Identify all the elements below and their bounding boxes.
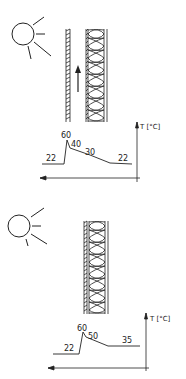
- axis-label: T [°C]: [139, 123, 161, 131]
- label-inside-temp: 22: [118, 154, 128, 163]
- non-ventilated-wall-svg: T [°C] 22 60 50 35: [0, 190, 186, 379]
- insulation-layer: [86, 29, 107, 122]
- label-mid-temp: 30: [85, 148, 95, 157]
- label-outside-temp: 22: [46, 154, 56, 163]
- sun-icon: [8, 208, 47, 246]
- sun-icon: [12, 17, 51, 59]
- label-after-peak-temp: 50: [88, 332, 98, 341]
- label-inside-temp: 35: [122, 336, 132, 345]
- label-after-peak-temp: 40: [71, 140, 81, 149]
- label-peak-temp: 60: [77, 324, 87, 333]
- ventilated-wall-svg: T [°C] 22 60 40 30 22: [0, 0, 186, 190]
- label-peak-temp: 60: [61, 131, 71, 140]
- wall-section: [84, 221, 108, 314]
- ventilated-wall-diagram: T [°C] 22 60 40 30 22: [0, 0, 186, 190]
- outer-cladding: [66, 29, 70, 122]
- non-ventilated-wall-diagram: T [°C] 22 60 50 35: [0, 190, 186, 379]
- label-outside-temp: 22: [64, 344, 74, 353]
- axis-label: T [°C]: [149, 315, 171, 323]
- air-flow-arrow-icon: [75, 65, 81, 92]
